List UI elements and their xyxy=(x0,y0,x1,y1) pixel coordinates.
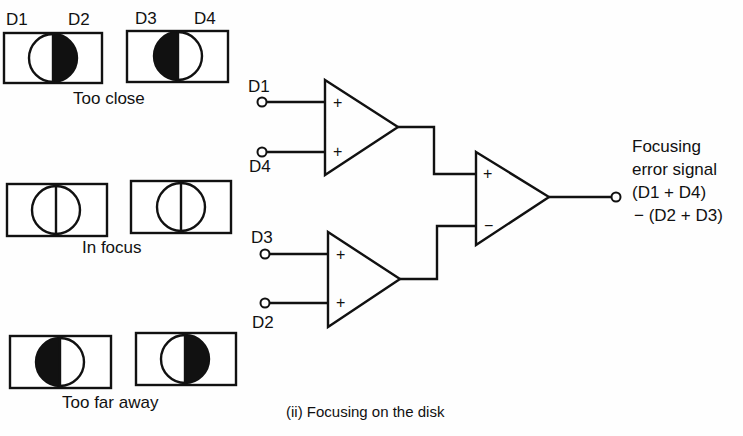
output-line-3: (D1 + D4) xyxy=(632,183,706,202)
input-label-d2: D2 xyxy=(252,313,274,332)
output-label: Focusing error signal (D1 + D4) − (D2 + … xyxy=(632,137,723,225)
summing-amp-bottom: D3 D2 + + xyxy=(251,228,400,332)
detector-right-too-far xyxy=(136,333,236,385)
detector-d3-d4 xyxy=(127,31,228,82)
wire-top-to-diff xyxy=(398,127,476,174)
output-terminal xyxy=(612,193,621,202)
input-terminal-d3 xyxy=(261,250,270,259)
input-terminal-d2 xyxy=(261,299,270,308)
detector-d1-d2 xyxy=(4,33,102,83)
too-close-panel: D1 D2 D3 D4 Too close xyxy=(4,9,228,108)
caption-too-close: Too close xyxy=(73,89,145,108)
focusing-diagram: D1 D2 D3 D4 Too close xyxy=(0,0,743,436)
wire-bottom-to-diff xyxy=(400,226,476,279)
figure-caption: (ii) Focusing on the disk xyxy=(286,403,445,420)
output-line-2: error signal xyxy=(632,160,717,179)
summing-amp-top: D1 D4 + + xyxy=(248,77,398,176)
detector-left-in-focus xyxy=(7,184,107,236)
input-label-d3: D3 xyxy=(251,228,273,247)
detector-right-in-focus xyxy=(131,181,231,233)
sign-plus: + xyxy=(333,143,342,160)
input-terminal-d4 xyxy=(258,148,267,157)
label-d1: D1 xyxy=(6,10,28,29)
input-label-d4: D4 xyxy=(249,157,271,176)
sign-minus: − xyxy=(484,217,493,234)
sign-plus: + xyxy=(336,294,345,311)
label-d3: D3 xyxy=(135,9,157,28)
caption-too-far: Too far away xyxy=(62,393,159,412)
output-line-1: Focusing xyxy=(632,137,701,156)
difference-amp: + − xyxy=(476,152,621,245)
sign-plus: + xyxy=(336,246,345,263)
sign-plus: + xyxy=(333,94,342,111)
in-focus-panel: In focus xyxy=(7,181,231,257)
output-line-4: − (D2 + D3) xyxy=(634,206,723,225)
input-terminal-d1 xyxy=(258,98,267,107)
sign-plus: + xyxy=(483,165,492,182)
label-d2: D2 xyxy=(68,10,90,29)
too-far-panel: Too far away xyxy=(10,333,236,412)
detector-left-too-far xyxy=(10,336,111,388)
input-label-d1: D1 xyxy=(248,77,270,96)
caption-in-focus: In focus xyxy=(82,238,142,257)
label-d4: D4 xyxy=(194,9,216,28)
